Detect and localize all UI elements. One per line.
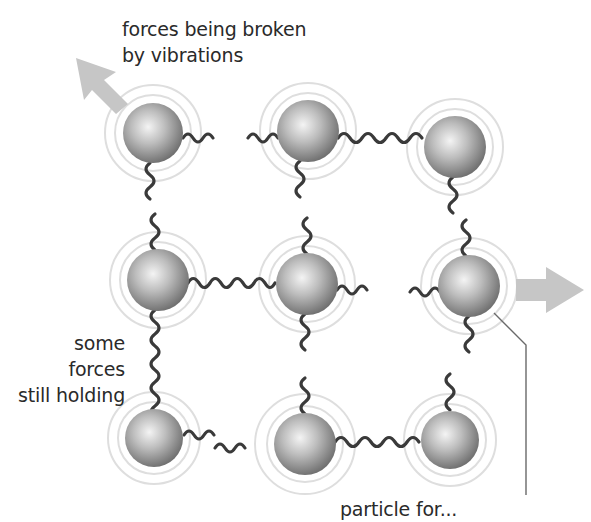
label-forces-holding: some forces still holding (15, 330, 125, 408)
label-line: by vibrations (122, 42, 306, 68)
particle (277, 100, 339, 162)
particle (424, 116, 486, 178)
particle (123, 103, 183, 163)
label-line: forces being broken (122, 16, 306, 42)
particles (123, 100, 500, 475)
particle (125, 409, 183, 467)
label-forces-broken: forces being broken by vibrations (122, 16, 306, 68)
leader-line (494, 313, 526, 495)
label-bottom-partial: particle for... (340, 496, 457, 522)
label-line: still holding (15, 382, 125, 408)
particle (274, 413, 336, 475)
arrow-up-left-icon (76, 58, 128, 114)
particle (276, 253, 338, 315)
label-line: some forces (15, 330, 125, 382)
particle (438, 255, 500, 317)
particle (421, 411, 479, 469)
arrow-right-icon (516, 267, 584, 313)
particle (127, 249, 189, 311)
